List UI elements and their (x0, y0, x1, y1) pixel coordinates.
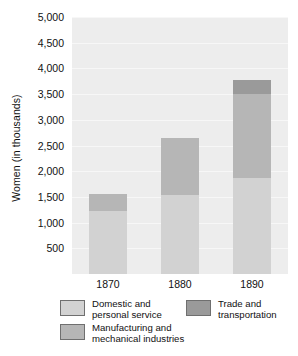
y-tick-label: 3,500 (8, 88, 64, 100)
legend-label-domestic: Domestic and personal service (92, 299, 162, 320)
y-tick-label: 1,500 (8, 191, 64, 203)
legend-swatch-domestic (60, 300, 85, 316)
bar-1890 (233, 80, 271, 274)
bar-segment (233, 80, 271, 93)
y-tick-label: 4,000 (8, 62, 64, 74)
legend-item-trade: Trade and transportation (186, 299, 277, 320)
y-tick-label: 3,000 (8, 114, 64, 126)
legend-swatch-trade (186, 300, 211, 316)
y-tick-label: 4,500 (8, 37, 64, 49)
bar-segment (161, 195, 199, 274)
bar-segment (233, 94, 271, 178)
bar-segment (89, 194, 127, 210)
legend-label-trade: Trade and transportation (218, 299, 277, 320)
plot-area (72, 17, 288, 274)
y-tick-label: 500 (8, 242, 64, 254)
bar-1880 (161, 138, 199, 274)
bar-segment (233, 178, 271, 274)
y-tick-label: 5,000 (8, 11, 64, 23)
bar-1870 (89, 194, 127, 274)
bar-group (72, 17, 288, 274)
legend-item-domestic: Domestic and personal service (60, 299, 162, 320)
legend-swatch-manufacturing (60, 324, 85, 340)
legend-label-manufacturing: Manufacturing and mechanical industries (92, 323, 184, 344)
chart-legend: Domestic and personal service Manufactur… (60, 299, 298, 351)
y-tick-label: 2,500 (8, 140, 64, 152)
bar-segment (89, 211, 127, 274)
y-tick-label: 2,000 (8, 165, 64, 177)
x-tick-label: 1880 (145, 278, 215, 290)
legend-item-manufacturing: Manufacturing and mechanical industries (60, 323, 184, 344)
chart-container: Women (in thousands) 5001,0001,5002,0002… (0, 0, 298, 356)
bar-segment (161, 138, 199, 195)
y-tick-label: 1,000 (8, 217, 64, 229)
x-tick-label: 1890 (217, 278, 287, 290)
x-tick-label: 1870 (73, 278, 143, 290)
